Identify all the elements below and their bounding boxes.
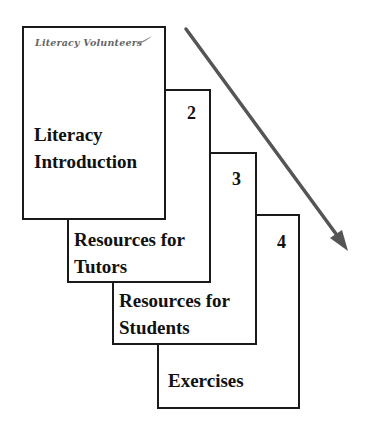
card-title: Exercises <box>168 367 244 394</box>
card-title-line2: Students <box>119 314 190 341</box>
card-title-line1: Literacy <box>34 121 103 148</box>
card-number: 2 <box>187 104 196 122</box>
quill-icon <box>135 35 153 45</box>
card-number: 3 <box>232 170 241 188</box>
card-title-line2: Tutors <box>74 253 127 280</box>
card-literacy-introduction: Literacy Volunteers Literacy Introductio… <box>22 26 166 220</box>
card-title-line2: Introduction <box>34 148 137 175</box>
card-title-line1: Resources for <box>119 287 230 314</box>
literacy-volunteers-logo: Literacy Volunteers <box>35 37 142 48</box>
card-number: 4 <box>277 233 286 251</box>
card-title-line1: Resources for <box>74 226 185 253</box>
